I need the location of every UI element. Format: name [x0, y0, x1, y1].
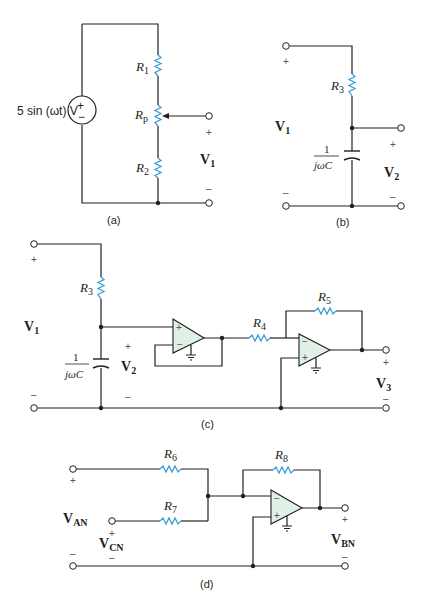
r2-label: R2	[135, 160, 149, 177]
caption-a: (a)	[107, 214, 120, 226]
circuit-figure: + − 5 sin (ωt) V R1 Rp R2 + V1 – (a) R3	[0, 0, 425, 607]
cap-denominator: jωC	[312, 159, 333, 171]
resistor-r1-icon	[155, 55, 161, 76]
junction-dot	[279, 406, 283, 410]
v2-label: V2	[384, 165, 399, 182]
opamp1-minus: −	[177, 339, 183, 350]
terminal-icon	[70, 563, 77, 570]
opamp2-plus: +	[302, 352, 308, 363]
terminal-icon	[109, 518, 116, 525]
v1-minus: –	[283, 187, 289, 198]
caption-c: (c)	[201, 418, 214, 430]
ground-icon	[311, 358, 321, 373]
r6-label: R6	[163, 446, 177, 463]
opamp-minus: −	[274, 493, 280, 504]
capacitor-icon	[344, 151, 360, 160]
v3-plus: +	[383, 357, 389, 368]
terminal-icon	[31, 241, 38, 248]
v2-minus: –	[125, 391, 131, 402]
v2-label: V2	[121, 359, 136, 376]
caption-d: (d)	[200, 578, 213, 590]
v3-minus: –	[383, 393, 389, 404]
source-label: 5 sin (ωt) V	[17, 104, 78, 118]
terminal-icon	[383, 347, 390, 354]
caption-b: (b)	[336, 216, 349, 228]
junction-dot	[206, 494, 210, 498]
panel-c: R3 1 jωC + − R4 R5 − +	[24, 241, 391, 430]
junction-dot	[360, 348, 364, 352]
r5-label: R5	[317, 289, 331, 306]
resistor-r3-icon	[349, 74, 355, 96]
terminal-icon	[283, 43, 290, 50]
wiper-arrow-icon	[162, 113, 169, 119]
junction-dot	[318, 506, 322, 510]
potentiometer-rp-icon	[155, 105, 161, 126]
vbn-minus: –	[342, 551, 348, 562]
r3-label: R3	[79, 280, 93, 297]
terminal-icon	[383, 405, 390, 412]
panel-d: R6 R7 R8 − + + VAN – + VC	[63, 446, 356, 590]
terminal-icon	[283, 203, 290, 210]
rp-label: Rp	[134, 107, 148, 124]
van-plus: +	[70, 475, 76, 486]
junction-dot	[220, 336, 224, 340]
terminal-icon	[398, 125, 405, 132]
cap-numerator: 1	[73, 351, 79, 363]
terminal-icon	[342, 563, 349, 570]
panel-b: R3 1 jωC + V1 – + V2 – (b)	[275, 43, 404, 228]
r4-label: R4	[252, 315, 266, 332]
junction-dot	[156, 201, 160, 205]
r1-label: R1	[135, 59, 149, 76]
resistor-r4-icon	[249, 335, 270, 341]
capacitor-icon	[93, 359, 109, 368]
panel-a: + − 5 sin (ωt) V R1 Rp R2 + V1 – (a)	[17, 24, 215, 226]
v3-label: V3	[376, 376, 391, 393]
vbn-plus: +	[342, 514, 348, 525]
van-minus: –	[70, 548, 76, 559]
ground-icon	[186, 345, 196, 360]
v1-label: V1	[200, 152, 215, 169]
opamp-plus: +	[274, 510, 280, 521]
cap-denominator: jωC	[63, 368, 84, 380]
resistor-r5-icon	[315, 308, 336, 314]
v1-plus: +	[283, 56, 289, 67]
v1-minus: –	[31, 389, 37, 400]
v1-minus: –	[206, 183, 212, 194]
junction-dot	[350, 204, 354, 208]
terminal-icon	[206, 113, 213, 120]
r3-label: R3	[330, 78, 344, 95]
vcn-plus: +	[109, 528, 115, 539]
terminal-icon	[398, 203, 405, 210]
van-label: VAN	[63, 511, 88, 528]
junction-dot	[350, 126, 354, 130]
terminal-icon	[70, 466, 77, 473]
v2-minus: –	[390, 191, 396, 202]
junction-dot	[99, 325, 103, 329]
terminal-icon	[31, 405, 38, 412]
v1-plus: +	[206, 127, 212, 138]
r7-label: R7	[163, 498, 177, 515]
resistor-r7-icon	[160, 518, 181, 524]
resistor-r3-icon	[98, 277, 104, 299]
v1-plus: +	[31, 254, 37, 265]
cap-numerator: 1	[324, 143, 330, 155]
source-minus: −	[78, 110, 85, 124]
opamp2-minus: −	[302, 336, 308, 347]
v1-label: V1	[24, 319, 39, 336]
v2-plus: +	[125, 341, 131, 352]
vbn-label: VBN	[331, 532, 356, 549]
v1-label: V1	[275, 119, 290, 136]
junction-dot	[99, 406, 103, 410]
resistor-r8-icon	[273, 467, 294, 473]
v2-plus: +	[390, 139, 396, 150]
resistor-r6-icon	[160, 466, 181, 472]
opamp1-plus: +	[176, 322, 182, 333]
terminal-icon	[342, 505, 349, 512]
vcn-minus: –	[109, 552, 115, 563]
ground-icon	[282, 516, 292, 531]
resistor-r2-icon	[155, 158, 161, 178]
terminal-icon	[206, 200, 213, 207]
r8-label: R8	[274, 447, 288, 464]
